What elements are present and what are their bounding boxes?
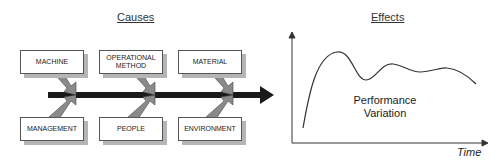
performance-variation-label: Performance Variation xyxy=(340,94,430,120)
cause-box-people: PEOPLE xyxy=(99,117,163,141)
spine-arrow xyxy=(48,86,274,104)
cause-box-environment: ENVIRONMENT xyxy=(178,117,242,141)
cause-box-operational-method: OPERATIONAL METHOD xyxy=(99,50,163,74)
effects-title: Effects xyxy=(371,11,404,23)
x-axis-label: Time xyxy=(457,146,481,158)
causes-title: Causes xyxy=(117,11,154,23)
effects-axes xyxy=(289,32,488,146)
label-line-1: Performance xyxy=(340,94,430,107)
cause-box-machine: MACHINE xyxy=(20,50,84,74)
label-line-2: Variation xyxy=(340,107,430,120)
cause-box-material: MATERIAL xyxy=(178,50,242,74)
cause-box-management: MANAGEMENT xyxy=(20,117,84,141)
